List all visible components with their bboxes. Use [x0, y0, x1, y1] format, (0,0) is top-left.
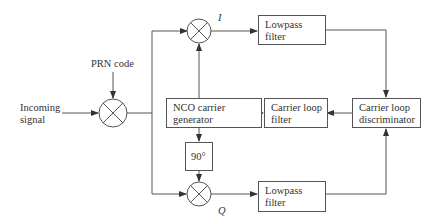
incoming-signal-label: Incoming signal [20, 102, 60, 126]
phase-shift-90-label: 90° [191, 151, 206, 163]
carrier-loop-filter-label: Carrier loop filter [271, 102, 322, 126]
lowpass-filter-i-label: Lowpass filter [265, 19, 302, 43]
nco-carrier-generator-label: NCO carrier generator [173, 102, 225, 126]
carrier-loop-discriminator-label: Carrier loop discriminator [359, 102, 415, 126]
lowpass-filter-q-label: Lowpass filter [265, 185, 302, 209]
lowpass-filter-q-block: Lowpass filter [258, 181, 326, 212]
lowpass-filter-i-block: Lowpass filter [258, 15, 326, 45]
prn-code-label: PRN code [91, 58, 134, 70]
carrier-loop-filter-block: Carrier loop filter [264, 98, 328, 128]
phase-shift-90-block: 90° [185, 142, 213, 171]
q-branch-label: Q [218, 205, 226, 217]
nco-carrier-generator-block: NCO carrier generator [166, 98, 262, 128]
i-branch-label: I [218, 12, 222, 24]
carrier-loop-discriminator-block: Carrier loop discriminator [352, 98, 421, 128]
